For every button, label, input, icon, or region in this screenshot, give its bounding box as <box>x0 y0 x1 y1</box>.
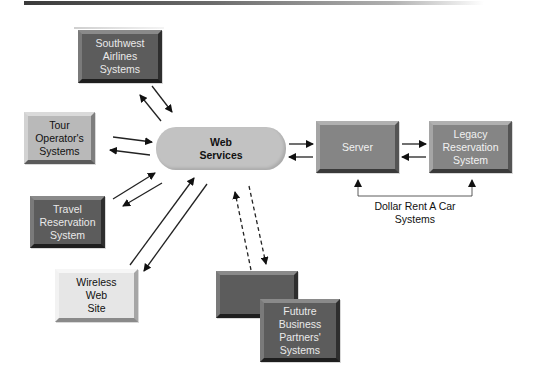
node-travel-reservation: Travel Reservation System <box>30 196 105 248</box>
node-label: Legacy Reservation System <box>442 128 498 167</box>
node-label: Fututre Business Partners' Systems <box>279 305 322 357</box>
group-label-dollar-rent-a-car: Dollar Rent A Car Systems <box>350 200 480 226</box>
node-label: Web Services <box>199 136 242 162</box>
node-label: Wireless Web Site <box>76 276 116 315</box>
node-southwest-airlines: Southwest Airlines Systems <box>78 30 162 83</box>
node-tour-operator: Tour Operator's Systems <box>24 112 95 164</box>
node-wireless-web-site: Wireless Web Site <box>55 269 138 322</box>
node-legacy-reservation: Legacy Reservation System <box>429 121 512 173</box>
node-label: Tour Operator's Systems <box>35 119 84 158</box>
node-server: Server <box>316 121 399 173</box>
node-label: Travel Reservation System <box>39 203 95 242</box>
node-label: Server <box>342 141 373 154</box>
node-future-business-partners: Fututre Business Partners' Systems <box>260 299 340 362</box>
node-web-services: Web Services <box>156 127 286 170</box>
node-label: Southwest Airlines Systems <box>95 37 144 76</box>
